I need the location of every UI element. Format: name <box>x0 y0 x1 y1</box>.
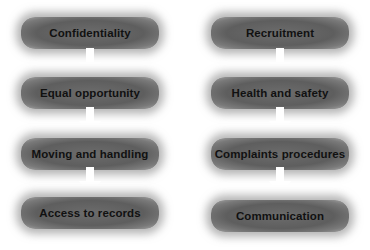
step-label-moving-and-handling: Moving and handling <box>15 138 165 170</box>
step-label-equal-opportunity: Equal opportunity <box>15 77 165 109</box>
step-label-access-to-records: Access to records <box>15 197 165 229</box>
down-arrow-icon <box>267 167 293 197</box>
step-label-communication: Communication <box>205 200 355 232</box>
down-arrow-icon <box>77 107 103 137</box>
down-arrow-icon <box>77 48 103 78</box>
step-label-confidentiality: Confidentiality <box>15 17 165 49</box>
step-label-complaints-procedures: Complaints procedures <box>205 138 355 170</box>
down-arrow-icon <box>267 48 293 78</box>
left-flow-column: Confidentiality Equal opportunity Moving… <box>15 0 165 250</box>
right-flow-column: Recruitment Health and safety Complaints… <box>205 0 355 250</box>
down-arrow-icon <box>77 167 103 197</box>
step-label-recruitment: Recruitment <box>205 17 355 49</box>
step-label-health-and-safety: Health and safety <box>205 77 355 109</box>
down-arrow-icon <box>267 107 293 137</box>
flow-diagram: Confidentiality Equal opportunity Moving… <box>0 0 370 250</box>
